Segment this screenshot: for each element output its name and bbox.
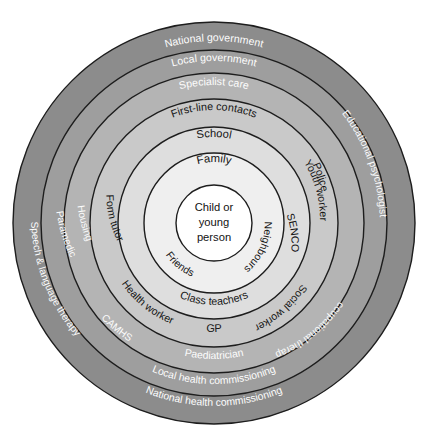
- core-line-2: young: [199, 216, 229, 228]
- core-label-group: Child or young person: [195, 201, 234, 243]
- concentric-circles-chart: National government Local government Spe…: [0, 0, 429, 443]
- label-gp: GP: [206, 322, 222, 334]
- ecological-model-diagram: National government Local government Spe…: [0, 0, 429, 443]
- label-school: School: [195, 127, 232, 141]
- core-line-1: Child or: [195, 201, 234, 213]
- core-line-3: person: [197, 231, 231, 243]
